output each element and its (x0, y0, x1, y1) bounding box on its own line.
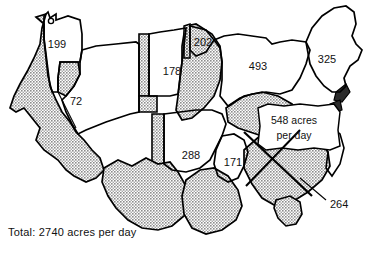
region-plains-sliver (152, 114, 164, 164)
callout-box (258, 104, 340, 150)
region-label-288: 288 (182, 149, 200, 161)
region-label-199: 199 (48, 38, 66, 50)
region-label-493: 493 (249, 60, 267, 72)
region-nebraska-block (139, 96, 157, 112)
leader-label-264: 264 (330, 198, 348, 210)
region-dakotas-band (139, 34, 149, 96)
map-graphic: 199 72 178 202 493 325 288 171 548 acres… (0, 0, 370, 255)
region-label-178: 178 (163, 65, 181, 77)
region-midatlantic-sliver-1 (334, 84, 350, 102)
region-label-72: 72 (70, 95, 82, 107)
region-gulf (182, 168, 242, 234)
region-mountain-west (62, 42, 139, 134)
region-label-325: 325 (318, 53, 336, 65)
region-florida-tail (274, 196, 302, 226)
callout-line-2: per day (276, 129, 312, 141)
region-label-171: 171 (224, 156, 242, 168)
region-southwest (102, 158, 190, 230)
map-lake-dot (48, 18, 53, 23)
region-central-plains (164, 110, 226, 172)
us-acres-per-day-map: 199 72 178 202 493 325 288 171 548 acres… (0, 0, 370, 255)
callout-line-1: 548 acres (271, 114, 317, 126)
region-label-202: 202 (194, 36, 212, 48)
region-northeast (306, 6, 362, 92)
total-caption: Total: 2740 acres per day (8, 226, 137, 238)
